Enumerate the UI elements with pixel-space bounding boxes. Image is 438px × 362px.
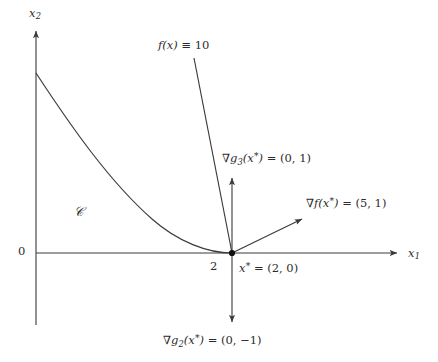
optimum-point-label: x* = (2, 0) [239,261,298,275]
x-axis-label: x1 [408,248,420,260]
grad-f-arrow [232,219,302,253]
optimum-point-dot [229,250,235,256]
grad-g2-label: ∇g2(x*) = (0, −1) [163,333,262,348]
objective-line-label: f(x) ≡ 10 [158,40,209,52]
curve-c-label: 𝒞 [74,205,83,218]
grad-g3-label: ∇g3(x*) = (0, 1) [222,151,311,166]
y-axis-label: x2 [29,8,41,20]
grad-f-label: ∇f(x*) = (5, 1) [306,196,386,210]
diagram-canvas [0,0,438,362]
x-tick-label-2: 2 [210,261,217,273]
origin-label: 0 [18,246,25,258]
optimization-kkt-diagram: x2 x1 0 2 f(x) ≡ 10 𝒞 x* = (2, 0) ∇g3(x*… [0,0,438,362]
